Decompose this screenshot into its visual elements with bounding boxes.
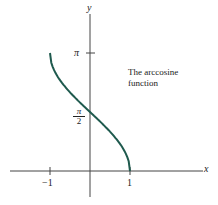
y-tick-label-pi: π [74, 48, 79, 58]
y-axis-label: y [87, 3, 91, 13]
chart-canvas [0, 0, 218, 205]
x-tick-label-neg-one: −1 [42, 178, 53, 188]
annotation-line-1: The arccosine [128, 67, 178, 78]
annotation-line-2: function [128, 78, 178, 89]
chart-annotation: The arccosine function [128, 67, 178, 89]
y-tick-label-pi-over-2: π 2 [73, 107, 85, 126]
x-axis-label: x [204, 164, 208, 174]
x-tick-label-one: 1 [127, 178, 132, 188]
fraction-denominator: 2 [73, 117, 85, 126]
